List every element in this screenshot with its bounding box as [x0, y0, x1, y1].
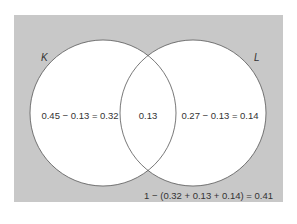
region-l-only: 0.27 − 0.13 = 0.14 — [181, 110, 258, 121]
region-outside: 1 − (0.32 + 0.13 + 0.14) = 0.41 — [144, 190, 273, 201]
region-intersection: 0.13 — [139, 110, 158, 121]
region-k-only: 0.45 − 0.13 = 0.32 — [41, 110, 118, 121]
set-l-label: L — [254, 52, 260, 63]
venn-diagram: K L 0.45 − 0.13 = 0.32 0.13 0.27 − 0.13 … — [0, 0, 297, 224]
